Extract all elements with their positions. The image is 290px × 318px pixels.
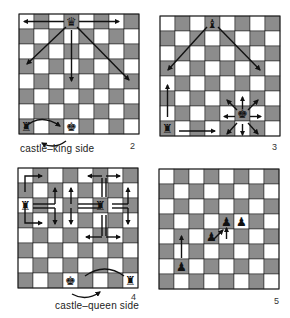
pawn-icon: ♟ — [221, 215, 232, 229]
chessboard-figure-3 — [160, 16, 280, 136]
figure-2-caption: castle–king side — [20, 143, 94, 154]
figure-5-number: 5 — [274, 296, 279, 306]
figure-2-number: 2 — [130, 141, 135, 151]
king-icon: ♚ — [65, 274, 76, 288]
rook-icon: ♜ — [125, 274, 136, 288]
figure-3-number: 3 — [272, 142, 277, 152]
chessboard-figure-2 — [19, 14, 139, 134]
pawn-icon: ♟ — [236, 215, 247, 229]
pawn-icon: ♟ — [176, 260, 187, 274]
rook-icon: ♜ — [162, 122, 173, 136]
chessboard-figure-4 — [18, 168, 138, 288]
bishop-icon: ♝ — [207, 17, 218, 31]
rook-icon: ♜ — [20, 199, 31, 213]
figure-4-caption: castle–queen side — [55, 300, 139, 311]
pawn-icon: ♟ — [206, 230, 217, 244]
king-icon: ♚ — [237, 107, 248, 121]
rook-icon: ♜ — [21, 120, 32, 134]
queen-icon: ♛ — [66, 15, 77, 29]
chess-diagrams: ♛♜♚♝♜♚♜♜♚♜♟♟♟♟ — [0, 0, 290, 318]
rook-icon: ♜ — [95, 199, 106, 213]
king-icon: ♚ — [66, 120, 77, 134]
